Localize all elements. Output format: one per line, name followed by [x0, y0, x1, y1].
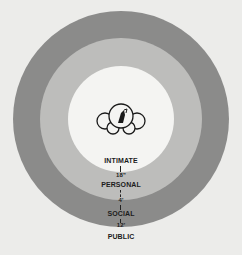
zone-label-personal: PERSONAL — [0, 181, 242, 188]
zone-label-social: SOCIAL — [0, 210, 242, 217]
zone-label-intimate: INTIMATE — [0, 157, 242, 164]
distance-label-18-inches: 18" — [0, 172, 242, 178]
axis-line-segment — [120, 190, 121, 197]
zone-label-public: PUBLIC — [0, 233, 242, 240]
people-group-icon — [94, 101, 148, 137]
distance-label-12-feet: 12' — [0, 222, 242, 228]
distance-label-4-feet: 4' — [0, 197, 242, 203]
